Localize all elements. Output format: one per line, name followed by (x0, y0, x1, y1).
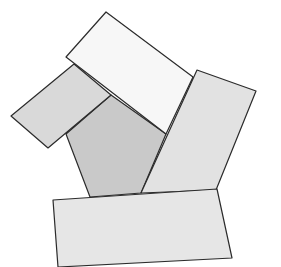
pentagon-rectangles-diagram (0, 0, 281, 267)
rect-bottom (53, 189, 232, 267)
